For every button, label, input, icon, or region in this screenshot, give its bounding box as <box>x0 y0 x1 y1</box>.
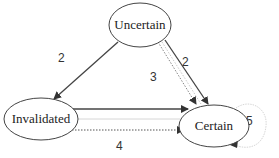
edge-label-uncertain-certain-3: 3 <box>150 70 157 84</box>
edge-uncertain-certain-solid <box>165 40 208 104</box>
node-certain: Certain <box>179 105 249 147</box>
edge-label-uncertain-certain-2: 2 <box>182 55 189 69</box>
node-label-invalidated: Invalidated <box>12 111 71 126</box>
edge-uncertain-certain-dotted <box>158 42 201 104</box>
node-invalidated: Invalidated <box>4 98 78 140</box>
node-uncertain: Uncertain <box>109 3 171 47</box>
node-label-uncertain: Uncertain <box>114 17 166 32</box>
node-label-certain: Certain <box>195 118 234 133</box>
state-diagram: 2 2 3 4 5 Uncertain Invalidated Certain <box>0 0 279 158</box>
edge-label-uncertain-invalidated: 2 <box>58 51 65 65</box>
edge-label-invalidated-certain-4: 4 <box>116 139 123 153</box>
